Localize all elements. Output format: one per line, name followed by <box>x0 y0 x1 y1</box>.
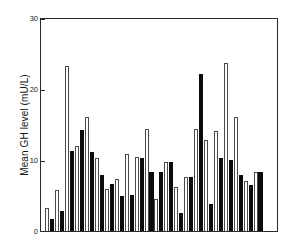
bar <box>199 74 203 231</box>
bar <box>85 117 89 231</box>
bar <box>145 129 149 231</box>
bar <box>120 196 124 231</box>
bar <box>204 140 208 231</box>
bar-series-container <box>41 19 277 231</box>
bar <box>194 129 198 231</box>
bar <box>209 204 213 231</box>
bar <box>214 131 218 231</box>
plot-area <box>40 18 278 232</box>
bar <box>229 160 233 231</box>
bar <box>110 184 114 231</box>
bar <box>60 211 64 231</box>
bar <box>100 175 104 231</box>
bar <box>90 152 94 231</box>
bar <box>105 189 109 231</box>
bar <box>75 146 79 231</box>
bar <box>219 158 223 231</box>
chart-figure: Mean GH level (mU/L) 30 20 10 0 <box>0 0 291 250</box>
bar <box>164 162 168 231</box>
bar <box>45 208 49 231</box>
bar <box>249 185 253 231</box>
bar <box>55 190 59 231</box>
bar <box>239 175 243 231</box>
bar <box>50 219 54 231</box>
bar <box>149 172 153 231</box>
y-axis-tick-labels: 30 20 10 0 <box>18 0 38 250</box>
bar <box>174 187 178 231</box>
bar <box>70 151 74 231</box>
y-tick-label-0: 0 <box>24 228 38 236</box>
bar <box>115 179 119 231</box>
bar <box>130 195 134 231</box>
bar <box>154 199 158 232</box>
y-tick-label-20: 20 <box>24 86 38 94</box>
bar <box>80 130 84 231</box>
bar <box>184 177 188 231</box>
bar <box>169 162 173 231</box>
bar <box>258 172 262 231</box>
bar <box>234 117 238 231</box>
bar <box>189 177 193 231</box>
bar <box>135 157 139 231</box>
y-tick-mark-0 <box>41 231 45 232</box>
bar <box>65 66 69 231</box>
bar <box>224 63 228 231</box>
bar <box>179 213 183 231</box>
y-tick-label-10: 10 <box>24 157 38 165</box>
bar <box>159 172 163 231</box>
bar <box>95 158 99 231</box>
y-tick-label-30: 30 <box>24 15 38 23</box>
bar <box>254 172 258 231</box>
bar <box>244 181 248 231</box>
bar <box>125 154 129 231</box>
bar <box>140 158 144 231</box>
